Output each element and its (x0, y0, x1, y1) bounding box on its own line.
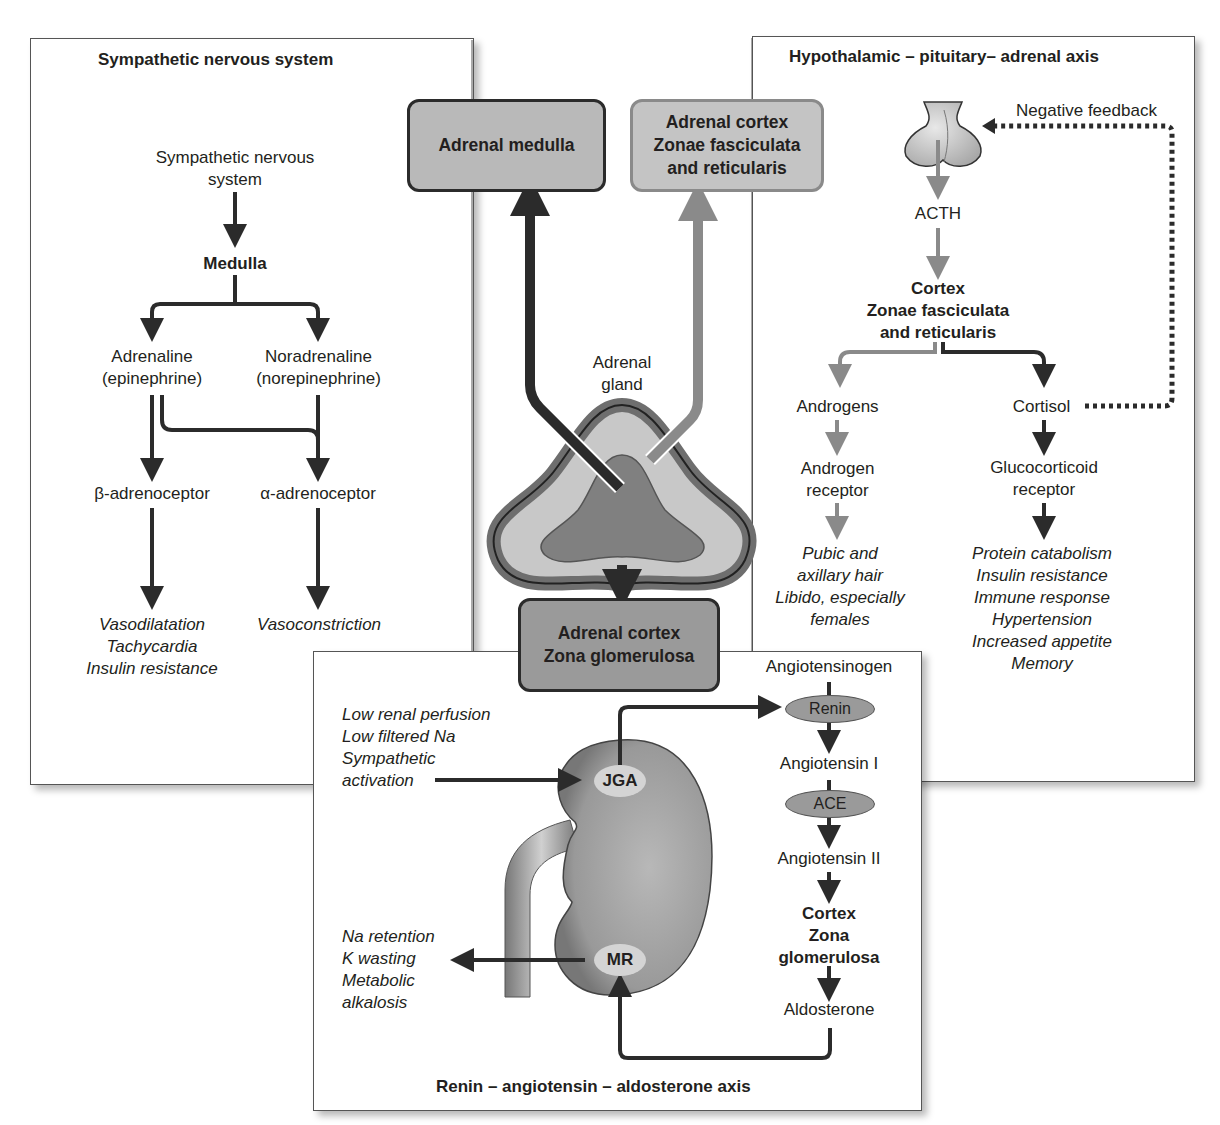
hpa-panel-title: Hypothalamic – pituitary– adrenal axis (789, 47, 1099, 67)
androgens-label: Androgens (775, 396, 900, 418)
raa-panel-title: Renin – angiotensin – aldosterone axis (436, 1077, 751, 1097)
angiotensin-2-label: Angiotensin II (754, 848, 904, 870)
angiotensinogen-label: Angiotensinogen (744, 656, 914, 678)
adrenal-cortex-fr-box: Adrenal cortex Zonae fasciculata and ret… (630, 99, 824, 192)
raa-cortex-zg-label: Cortex Zona glomerulosa (764, 903, 894, 969)
adrenal-medulla-box: Adrenal medulla (407, 99, 606, 192)
raa-stimuli: Low renal perfusion Low filtered Na Symp… (342, 704, 490, 792)
beta-adrenoceptor-label: β-adrenoceptor (72, 483, 232, 505)
sns-source-label: Sympathetic nervous system (120, 147, 350, 191)
ace-enzyme: ACE (785, 790, 875, 818)
acth-label: ACTH (898, 203, 978, 225)
hpa-cortex-label: Cortex Zonae fasciculata and reticularis (858, 278, 1018, 344)
renin-enzyme: Renin (785, 695, 875, 723)
adrenal-gland-shape (494, 405, 750, 585)
cortisol-label: Cortisol (994, 396, 1089, 418)
noradrenaline-label: Noradrenaline (norepinephrine) (236, 346, 401, 390)
androgen-receptor-label: Androgen receptor (775, 458, 900, 502)
alpha-adrenoceptor-label: α-adrenoceptor (238, 483, 398, 505)
angiotensin-1-label: Angiotensin I (754, 753, 904, 775)
adrenaline-label: Adrenaline (epinephrine) (72, 346, 232, 390)
pituitary-shape (905, 102, 981, 166)
mr-label: MR (594, 944, 646, 976)
adrenal-cortex-zg-box: Adrenal cortex Zona glomerulosa (518, 598, 720, 692)
alpha-effects: Vasoconstriction (236, 614, 402, 636)
adrenal-gland-label: Adrenal gland (572, 352, 672, 396)
negative-feedback-label: Negative feedback (994, 100, 1179, 122)
sympathetic-panel-title: Sympathetic nervous system (98, 50, 333, 70)
androgen-effects: Pubic and axillary hair Libido, especial… (755, 543, 925, 631)
jga-label: JGA (594, 765, 646, 797)
cortisol-effects: Protein catabolism Insulin resistance Im… (947, 543, 1137, 675)
glucocorticoid-receptor-label: Glucocorticoid receptor (964, 457, 1124, 501)
beta-effects: Vasodilatation Tachycardia Insulin resis… (60, 614, 244, 680)
aldosterone-label: Aldosterone (764, 999, 894, 1021)
medulla-label: Medulla (185, 253, 285, 275)
mr-effects: Na retention K wasting Metabolic alkalos… (342, 926, 435, 1014)
